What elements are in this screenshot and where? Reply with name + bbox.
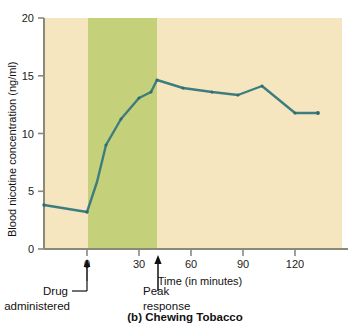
y-tick-label-0: 0 bbox=[28, 243, 34, 255]
y-axis-title: Blood nicotine concentration (ng/ml) bbox=[6, 62, 18, 237]
peak-response-label-line1: Peak bbox=[143, 285, 169, 297]
y-tick-label-5: 5 bbox=[28, 185, 34, 197]
drug-administered-label-line1: Drug bbox=[43, 285, 68, 297]
y-tick-label-20: 20 bbox=[22, 12, 34, 24]
x-tick-label-120: 120 bbox=[286, 258, 304, 270]
x-tick-label-30: 30 bbox=[133, 258, 145, 270]
drug-administered-label-line2: administered bbox=[4, 300, 70, 312]
x-tick-label-60: 60 bbox=[185, 258, 197, 270]
chart-figure: 20 15 10 5 0 0 30 60 90 120 bbox=[0, 0, 356, 323]
drug-administered-marker bbox=[72, 259, 90, 291]
absorption-band-shading bbox=[88, 18, 157, 249]
x-tick-label-90: 90 bbox=[237, 258, 249, 270]
y-tick-label-10: 10 bbox=[22, 128, 34, 140]
x-axis-ticks bbox=[87, 249, 295, 256]
x-axis-title: Time (in minutes) bbox=[158, 275, 243, 287]
figure-caption: (b) Chewing Tobacco bbox=[127, 311, 242, 323]
y-tick-label-15: 15 bbox=[22, 70, 34, 82]
chart-svg: 20 15 10 5 0 0 30 60 90 120 bbox=[0, 0, 356, 323]
